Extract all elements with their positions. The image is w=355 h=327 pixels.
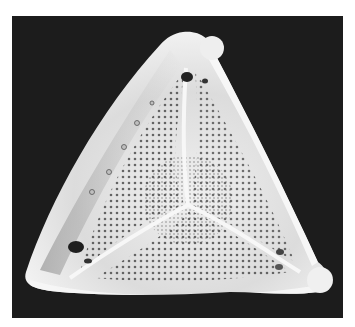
left-ocellus (68, 241, 84, 253)
top-pore (202, 79, 208, 84)
top-ocellus (181, 72, 193, 82)
right-lobe (307, 267, 333, 293)
top-lobe (200, 36, 224, 60)
right-ocellus (276, 249, 284, 255)
left-pore (84, 259, 92, 264)
diatom-image (0, 0, 355, 327)
right-pore (275, 264, 283, 270)
